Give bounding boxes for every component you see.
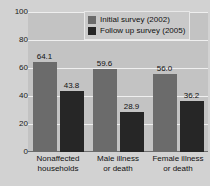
- y-axis-tick-label: 20: [4, 120, 28, 128]
- category-label-line: households: [28, 164, 88, 174]
- bar: 56.0: [153, 74, 177, 152]
- category-label-line: or death: [148, 164, 208, 174]
- bar-value-label: 36.2: [184, 91, 200, 100]
- bar-value-label: 43.8: [64, 81, 80, 90]
- category-label-line: Nonaffected: [28, 154, 88, 164]
- x-axis-category-labels: NonaffectedhouseholdsMale illnessor deat…: [28, 154, 208, 184]
- category-label-line: Female illness: [148, 154, 208, 164]
- bar: 64.1: [33, 62, 57, 152]
- legend-item-initial-survey: Initial survey (2002): [88, 14, 185, 25]
- y-axis-tick-label: 80: [4, 36, 28, 44]
- x-axis-category-label: Male illnessor death: [88, 154, 148, 184]
- bar-value-label: 64.1: [37, 52, 53, 61]
- bar-group: 64.143.8: [28, 12, 88, 152]
- bar-slot: 64.1: [33, 12, 57, 152]
- bar-value-label: 28.9: [124, 102, 140, 111]
- bar-value-label: 59.6: [97, 59, 113, 68]
- bar: 43.8: [60, 91, 84, 152]
- bar-chart: 64.143.859.628.956.036.2 020406080100 No…: [0, 0, 210, 186]
- legend-swatch-initial-survey: [88, 16, 96, 24]
- legend-label-initial-survey: Initial survey (2002): [100, 15, 170, 24]
- y-axis-tick-label: 0: [4, 148, 28, 156]
- y-axis-tick-label: 60: [4, 64, 28, 72]
- y-axis-tick-label: 40: [4, 92, 28, 100]
- x-axis-category-label: Nonaffectedhouseholds: [28, 154, 88, 184]
- category-label-line: or death: [88, 164, 148, 174]
- legend-label-followup-survey: Follow up survey (2005): [100, 26, 185, 35]
- category-label-line: Male illness: [88, 154, 148, 164]
- legend-swatch-followup-survey: [88, 27, 96, 35]
- bar: 28.9: [120, 112, 144, 152]
- bar-slot: 43.8: [60, 12, 84, 152]
- chart-legend: Initial survey (2002) Follow up survey (…: [84, 11, 190, 40]
- legend-item-followup-survey: Follow up survey (2005): [88, 25, 185, 36]
- y-axis-tick-label: 100: [4, 8, 28, 16]
- bar-value-label: 56.0: [157, 64, 173, 73]
- bar: 36.2: [180, 101, 204, 152]
- bar: 59.6: [93, 69, 117, 152]
- x-axis-category-label: Female illnessor death: [148, 154, 208, 184]
